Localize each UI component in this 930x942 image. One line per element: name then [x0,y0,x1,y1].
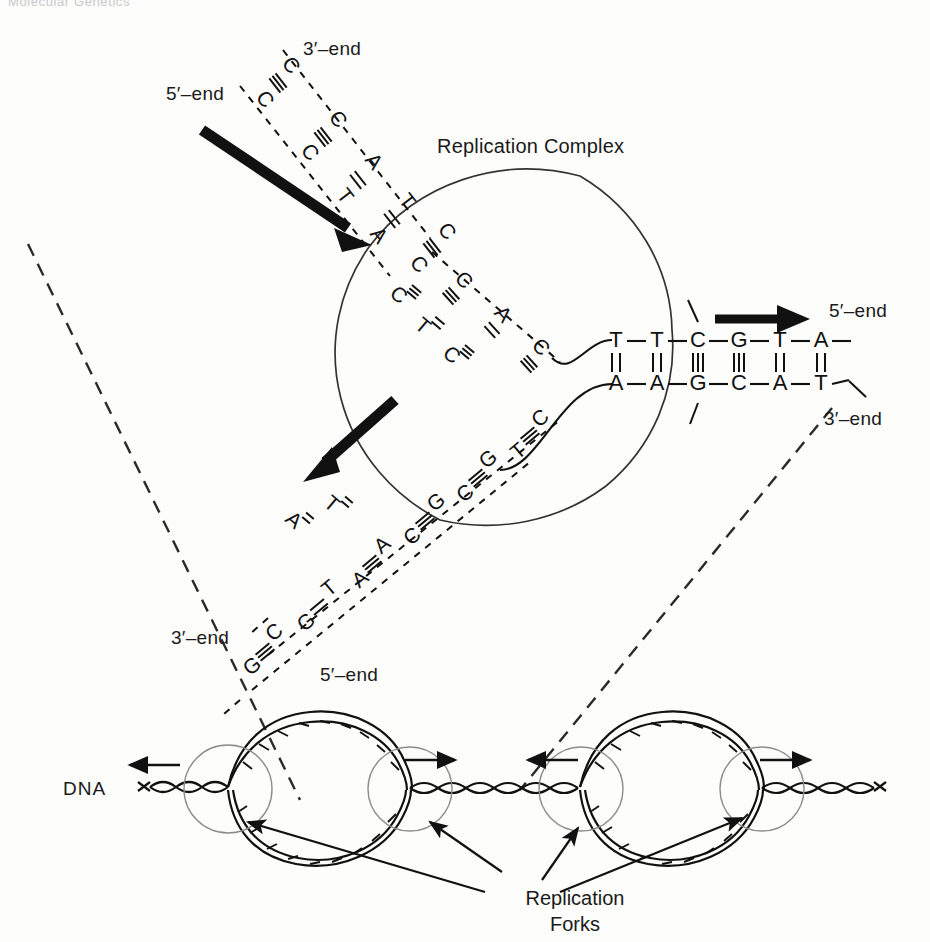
callout-line-right [520,408,832,790]
duplex-run-right [762,783,874,793]
end-label-5prime-right: 5′–end [829,300,887,322]
callout-line-left [28,244,300,800]
svg-text:T: T [320,491,345,517]
lower-dna-panel [130,711,886,892]
svg-text:C: C [406,251,433,277]
svg-text:G: G [730,327,747,352]
free-nucleotide-T-1: T [411,313,445,339]
duplex-run-middle [410,783,578,793]
leader-to-fork-2 [430,822,502,872]
svg-text:T: T [411,313,436,339]
leader-to-fork-3 [542,828,578,880]
free-nucleotides: C T C A [281,281,474,533]
end-label-5prime-top: 5′–end [166,83,224,105]
replication-complex-label: Replication Complex [437,135,624,158]
end-label-3prime-right: 3′–end [824,408,882,430]
svg-text:A: A [490,301,516,327]
svg-text:C: C [399,522,425,549]
svg-text:C: C [527,404,553,431]
svg-text:A: A [773,370,788,395]
fork-callout-leaders [248,818,742,892]
svg-text:C: C [252,86,279,112]
svg-text:C: C [690,327,706,352]
svg-text:C: C [451,266,478,293]
svg-text:T: T [609,327,622,352]
dna-left-terminus [138,782,150,791]
svg-text:G: G [689,370,706,395]
svg-text:T: T [814,370,827,395]
end-label-3prime-lower-left: 3′–end [171,627,229,649]
svg-text:C: C [434,218,461,244]
svg-text:C: C [297,139,324,165]
replication-forks-label-line1: Replication [495,885,655,911]
svg-text:A: A [361,148,388,173]
dna-right-terminus [874,782,886,791]
dna-label: DNA [63,778,106,800]
end-label-3prime-top: 3′–end [303,38,361,60]
free-nucleotide-T-2: T [320,491,353,517]
end-label-5prime-lower-left: 5′–end [320,664,378,686]
free-nucleotide-A-1: A [281,506,313,533]
svg-text:G: G [474,444,501,472]
svg-text:A: A [347,565,373,592]
svg-text:A: A [609,370,624,395]
svg-text:A: A [814,327,829,352]
figure-canvas: Molecular Genetics [0,0,930,942]
svg-text:C: C [731,370,747,395]
svg-text:T: T [316,574,341,600]
svg-text:A: A [650,370,665,395]
svg-text:C: C [452,479,478,506]
replication-bubble-right [580,711,764,865]
fork-movement-arrows [130,760,810,765]
svg-text:G: G [292,607,319,635]
free-nucleotide-C-1: C [386,281,421,308]
svg-text:T: T [650,327,663,352]
svg-text:A: A [366,222,393,247]
free-nucleotide-C-2: C [439,341,474,368]
svg-text:A: A [281,506,307,533]
svg-text:T: T [505,437,530,463]
svg-text:T: T [333,184,359,208]
replication-forks-label-line2: Forks [495,911,655,937]
svg-text:C: C [439,341,465,368]
daughter-duplex-lower: C T A G G C G G A C C T [224,404,560,714]
outgoing-daughter-arrow-lower [303,400,395,482]
svg-text:C: C [386,281,412,308]
svg-text:A: A [369,531,395,558]
outgoing-daughter-arrow-right [715,305,810,333]
duplex-run-left [150,782,228,792]
leader-to-fork-1 [248,822,485,892]
